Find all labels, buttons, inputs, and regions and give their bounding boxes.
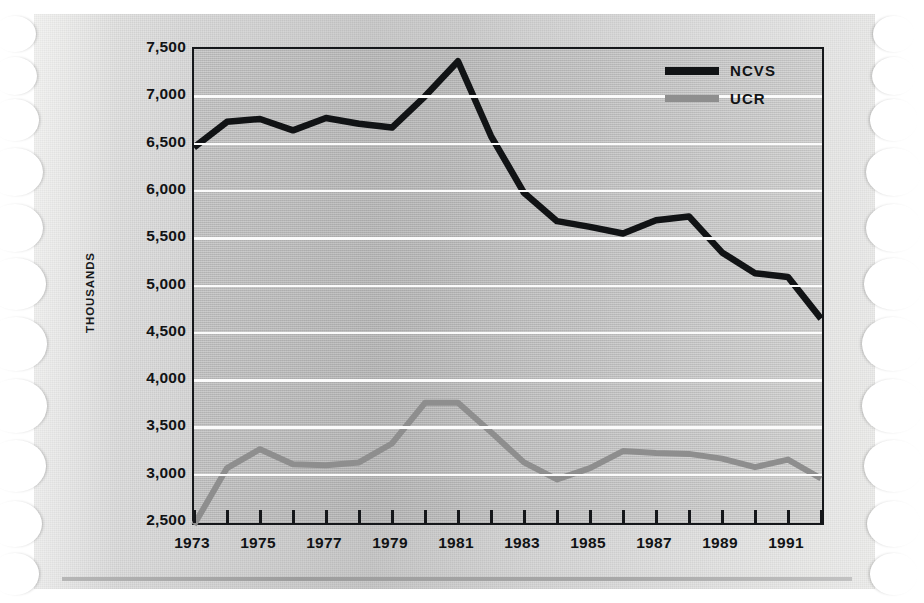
x-axis-tick-label: 1985 xyxy=(570,534,606,552)
x-axis-tick-label: 1981 xyxy=(438,534,474,552)
legend-label-ucr: UCR xyxy=(730,90,766,107)
x-axis-tick-label: 1989 xyxy=(702,534,738,552)
legend-item-ucr: UCR xyxy=(665,90,776,107)
legend-swatch-ucr xyxy=(665,95,719,102)
x-axis-tick-label: 1983 xyxy=(504,534,540,552)
x-axis-tick-label: 1977 xyxy=(306,534,342,552)
x-axis-tick-label: 1987 xyxy=(636,534,672,552)
x-axis-tick-label: 1975 xyxy=(240,534,276,552)
legend-item-ncvs: NCVS xyxy=(665,62,776,79)
legend-swatch-ncvs xyxy=(665,67,719,75)
x-axis-tick-label: 1979 xyxy=(372,534,408,552)
legend-label-ncvs: NCVS xyxy=(730,62,776,79)
x-axis-tick-label: 1973 xyxy=(174,534,210,552)
x-axis-tick-label: 1991 xyxy=(768,534,804,552)
chart-legend: NCVS UCR xyxy=(665,62,776,118)
